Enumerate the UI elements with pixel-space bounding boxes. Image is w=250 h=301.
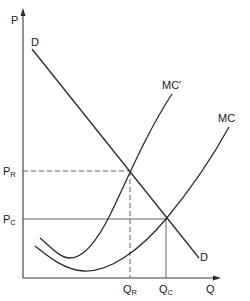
quantity-regulated-label: QR xyxy=(123,283,138,297)
x-axis-label: Q xyxy=(206,283,215,295)
demand-curve-group: D D xyxy=(31,36,208,263)
guide-lines xyxy=(23,171,166,278)
x-axis-arrow-icon xyxy=(213,276,221,281)
demand-label-bottom: D xyxy=(200,251,208,263)
mc-curve-group: MC xyxy=(35,112,235,271)
mc-label: MC xyxy=(218,112,235,124)
mc-shifted-label: MC′ xyxy=(162,79,181,91)
price-competitive-label: PC xyxy=(3,213,16,227)
demand-label-top: D xyxy=(31,36,39,48)
mc-curve xyxy=(35,127,229,271)
quantity-tick-labels: QR QC xyxy=(123,283,174,297)
y-axis-arrow-icon xyxy=(21,8,26,16)
y-axis-label: P xyxy=(11,14,18,26)
quantity-competitive-label: QC xyxy=(159,283,174,297)
mc-shifted-curve-group: MC′ xyxy=(40,79,181,258)
price-regulated-label: PR xyxy=(3,165,16,179)
economics-diagram: P Q PR PC QR QC D D MC′ M xyxy=(0,0,250,301)
price-tick-labels: PR PC xyxy=(3,165,16,227)
